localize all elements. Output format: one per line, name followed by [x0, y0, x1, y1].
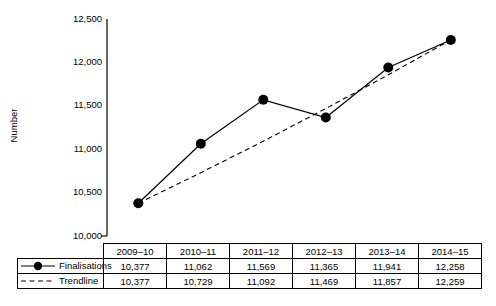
table-cell-finalisations-2011-12: 11,569 [230, 259, 293, 274]
table-cell-finalisations-2010-11: 11,062 [167, 259, 230, 274]
legend-marker-dashed-line-icon [21, 275, 55, 287]
data-point-2010–11 [196, 139, 206, 149]
finalisations-series [138, 40, 451, 203]
trendline-series [138, 40, 451, 203]
table-header-2010-11: 2010–11 [167, 244, 230, 259]
table-cell-finalisations-2013-14: 11,941 [356, 259, 419, 274]
table-header-2013-14: 2013–14 [356, 244, 419, 259]
data-point-2013–14 [383, 63, 393, 73]
data-point-2009–10 [133, 198, 143, 208]
table-header-2011-12: 2011–12 [230, 244, 293, 259]
table-cell-trendline-2009-10: 10,377 [104, 274, 167, 289]
table-cell-trendline-2010-11: 10,729 [167, 274, 230, 289]
table-cell-finalisations-2014-15: 12,258 [419, 259, 482, 274]
table-header-row: 2009–10 2010–11 2011–12 2012–13 2013–14 … [18, 244, 482, 259]
legend-item-finalisations[interactable]: Finalisations [18, 259, 104, 274]
chart-page: 12,500 12,000 11,500 11,000 10,500 10,00… [0, 0, 496, 306]
table-cell-trendline-2011-12: 11,092 [230, 274, 293, 289]
table-header-2014-15: 2014–15 [419, 244, 482, 259]
finalisations-markers [133, 35, 456, 208]
table-row: Trendline 10,377 10,729 11,092 11,469 11… [18, 274, 482, 289]
table-cell-trendline-2012-13: 11,469 [293, 274, 356, 289]
table-header-2012-13: 2012–13 [293, 244, 356, 259]
data-point-2014–15 [446, 35, 456, 45]
plot-area: 12,500 12,000 11,500 11,000 10,500 10,00… [0, 0, 496, 240]
data-point-2011–12 [258, 95, 268, 105]
table-cell-finalisations-2009-10: 10,377 [104, 259, 167, 274]
table-cell-trendline-2013-14: 11,857 [356, 274, 419, 289]
chart-canvas [0, 0, 496, 240]
legend-label-trendline: Trendline [59, 274, 98, 288]
data-table: 2009–10 2010–11 2011–12 2012–13 2013–14 … [17, 243, 482, 289]
legend-label-finalisations: Finalisations [59, 259, 112, 273]
data-point-2012–13 [321, 113, 331, 123]
table-cell-finalisations-2012-13: 11,365 [293, 259, 356, 274]
table-header-2009-10: 2009–10 [104, 244, 167, 259]
table-cell-trendline-2014-15: 12,259 [419, 274, 482, 289]
legend-marker-solid-circle-icon [21, 260, 55, 272]
table-corner-cell [18, 244, 104, 259]
table-row: Finalisations 10,377 11,062 11,569 11,36… [18, 259, 482, 274]
legend-item-trendline[interactable]: Trendline [18, 274, 104, 289]
